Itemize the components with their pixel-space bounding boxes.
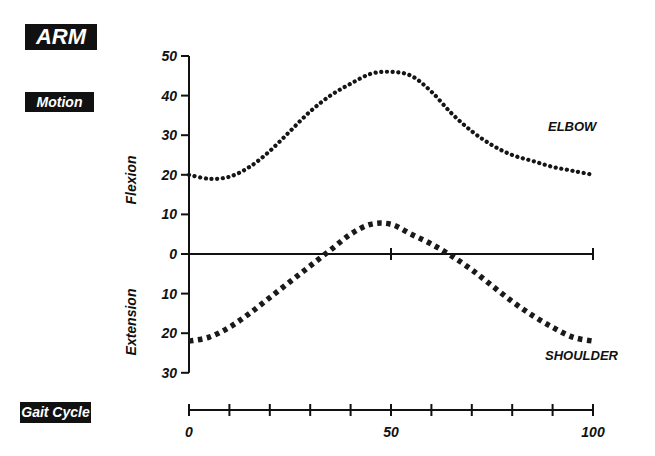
y-tick-label: 40 — [160, 88, 177, 104]
y-tick-label: 30 — [161, 365, 177, 381]
x-tick-label: 0 — [185, 424, 193, 440]
x-axis: 050100 — [185, 404, 605, 440]
series-label-shoulder: SHOULDER — [545, 348, 619, 363]
y-tick-label: 10 — [161, 286, 177, 302]
y-tick-label: 0 — [169, 246, 177, 262]
series-label-elbow: ELBOW — [548, 119, 598, 134]
y-tick-label: 50 — [161, 48, 177, 64]
y-tick-label: 20 — [160, 167, 177, 183]
arm-motion-chart: 50403020100102030 050100 Flexion Extensi… — [0, 0, 655, 456]
x-tick-label: 50 — [383, 424, 399, 440]
y-axis: 50403020100102030 — [160, 48, 189, 381]
y-axis-title-flexion: Flexion — [123, 155, 139, 204]
y-tick-label: 20 — [160, 325, 177, 341]
y-axis-title-extension: Extension — [123, 289, 139, 356]
series-line-shoulder — [189, 223, 593, 341]
y-tick-label: 10 — [161, 206, 177, 222]
zero-line — [189, 248, 593, 260]
series-line-elbow — [189, 72, 593, 179]
y-tick-label: 30 — [161, 127, 177, 143]
series-layer — [189, 72, 593, 341]
x-tick-label: 100 — [581, 424, 605, 440]
